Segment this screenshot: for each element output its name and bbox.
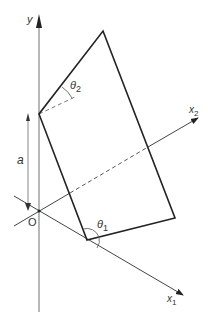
theta2-reference-line (39, 97, 75, 114)
x1-axis-label: x1 (166, 293, 177, 307)
y-axis-label: y (26, 13, 34, 25)
y-axis (36, 14, 42, 312)
theta2-label: θ2 (70, 79, 81, 94)
offset-a-label: a (17, 153, 24, 167)
x2-axis (14, 118, 198, 226)
diagram-canvas: y x2 x1 O a θ2 θ1 (0, 0, 208, 321)
theta1-label: θ1 (97, 218, 108, 233)
offset-a-arrow (25, 113, 31, 211)
x2-axis-label: x2 (188, 104, 199, 118)
origin-point (38, 210, 41, 213)
quadrilateral-shape (39, 31, 175, 240)
origin-label: O (28, 216, 37, 228)
